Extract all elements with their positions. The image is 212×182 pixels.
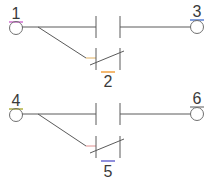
node-label-6: 6 — [193, 90, 202, 107]
circuit-b: 4 6 5 — [9, 90, 204, 180]
branch-wire-a — [38, 27, 86, 58]
terminal-node-4[interactable] — [10, 109, 23, 122]
circuit-a: 1 3 2 — [9, 3, 204, 90]
switch-diagram: 1 3 2 4 6 — [0, 0, 212, 182]
node-label-3: 3 — [193, 3, 202, 20]
terminal-node-1[interactable] — [10, 22, 23, 35]
contact-label-5: 5 — [104, 163, 113, 180]
node-label-1: 1 — [12, 5, 21, 22]
contact-label-2: 2 — [104, 73, 113, 90]
terminal-node-3[interactable] — [191, 21, 204, 34]
branch-wire-b — [38, 114, 86, 146]
node-label-4: 4 — [12, 92, 21, 109]
terminal-node-6[interactable] — [191, 108, 204, 121]
